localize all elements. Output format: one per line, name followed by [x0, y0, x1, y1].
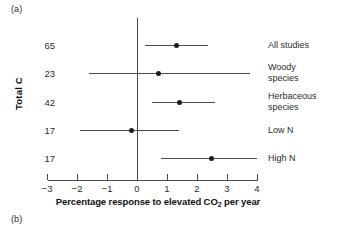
- n-label-low-n: 17: [29, 125, 55, 136]
- x-tick-label--1: −1: [97, 183, 117, 194]
- x-tick--3: [47, 174, 48, 180]
- x-tick-label-1: 1: [157, 183, 177, 194]
- x-axis-title-after: per year: [221, 196, 260, 207]
- category-label-all-studies: All studies: [268, 40, 337, 51]
- category-label-line: species: [268, 102, 337, 113]
- category-label-line: Low N: [268, 125, 337, 136]
- point-herbaceous-species: [177, 100, 182, 105]
- x-tick-label-2: 2: [187, 183, 207, 194]
- zero-reference-line: [137, 18, 138, 178]
- category-label-woody-species: Woody species: [268, 62, 337, 83]
- x-tick-label-4: 4: [247, 183, 267, 194]
- x-tick-2: [197, 174, 198, 180]
- n-label-all-studies: 65: [29, 40, 55, 51]
- category-label-line: High N: [268, 153, 337, 164]
- x-axis-title-before: Percentage response to elevated CO: [56, 196, 218, 207]
- category-label-low-n: Low N: [268, 125, 337, 136]
- x-axis-title-subscript: 2: [218, 201, 222, 208]
- x-tick-label-0: 0: [127, 183, 147, 194]
- point-woody-species: [156, 71, 161, 76]
- x-axis-line: [48, 180, 258, 181]
- point-all-studies: [174, 43, 179, 48]
- category-label-line: All studies: [268, 40, 337, 51]
- point-high-n: [209, 156, 214, 161]
- x-tick-0: [137, 171, 138, 180]
- x-tick--1: [107, 174, 108, 180]
- x-tick-4: [257, 174, 258, 180]
- x-tick--2: [77, 174, 78, 180]
- category-label-line: Woody: [268, 62, 337, 73]
- x-tick-label--3: −3: [37, 183, 57, 194]
- category-label-line: Herbaceous: [268, 91, 337, 102]
- x-tick-label--2: −2: [67, 183, 87, 194]
- category-label-herbaceous-species: Herbaceous species: [268, 91, 337, 112]
- ci-line-woody-species: [89, 73, 250, 74]
- ci-line-herbaceous-species: [152, 102, 215, 103]
- category-label-line: species: [268, 73, 337, 84]
- x-tick-1: [167, 174, 168, 180]
- panel-label-b: (b): [11, 214, 22, 224]
- x-tick-3: [227, 174, 228, 180]
- n-label-herbaceous-species: 42: [29, 97, 55, 108]
- category-label-high-n: High N: [268, 153, 337, 164]
- point-low-n: [129, 128, 134, 133]
- n-label-high-n: 17: [29, 153, 55, 164]
- n-label-woody-species: 23: [29, 68, 55, 79]
- plot-area: −3 −2 −1 0 1 2 3 4: [0, 0, 337, 227]
- x-tick-label-3: 3: [217, 183, 237, 194]
- figure-panel-a: (a) Total C −3 −2 −1 0 1 2 3 4 65 23 42 …: [0, 0, 337, 227]
- x-axis-title: Percentage response to elevated CO2 per …: [0, 196, 316, 207]
